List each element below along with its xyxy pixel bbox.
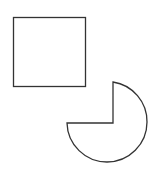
diagram-canvas bbox=[0, 0, 158, 177]
square-shape bbox=[14, 18, 86, 87]
three-quarter-circle-shape bbox=[67, 82, 147, 162]
shapes-svg bbox=[0, 0, 158, 177]
